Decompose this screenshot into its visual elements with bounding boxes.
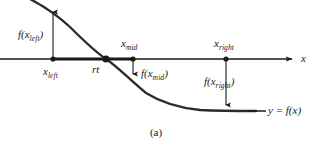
point-root bbox=[102, 55, 109, 62]
point-x-mid bbox=[130, 56, 135, 61]
axis-label-x: x bbox=[301, 53, 306, 64]
label-f-x-right-close: ) bbox=[231, 75, 235, 87]
label-f-x-left-close: ) bbox=[40, 28, 44, 40]
bisection-method-figure: f(xleft) xleft rt xmid f(xmid) xright f(… bbox=[0, 0, 312, 147]
label-f-x-mid: f(xmid) bbox=[141, 68, 168, 79]
label-f-x-left-sub: left bbox=[30, 34, 40, 43]
label-x-mid-sub: mid bbox=[126, 43, 138, 52]
point-x-left bbox=[50, 56, 55, 61]
function-curve bbox=[28, 0, 256, 111]
label-x-right: xright bbox=[214, 38, 234, 49]
label-x-left: xleft bbox=[43, 66, 58, 77]
label-x-mid: xmid bbox=[121, 38, 137, 49]
figure-caption: (a) bbox=[0, 126, 312, 138]
label-f-x-mid-sub: mid bbox=[153, 73, 165, 82]
label-root: rt bbox=[92, 64, 99, 75]
label-x-right-sub: right bbox=[219, 43, 234, 52]
curve-label: y = f(x) bbox=[268, 105, 301, 116]
label-x-left-sub: left bbox=[48, 71, 58, 80]
label-f-x-right-base: f(x bbox=[204, 75, 216, 87]
label-f-x-mid-base: f(x bbox=[141, 67, 153, 79]
point-x-right bbox=[223, 56, 228, 61]
label-f-x-mid-close: ) bbox=[164, 67, 168, 79]
label-f-x-right: f(xright) bbox=[204, 76, 234, 87]
label-f-x-left: f(xleft) bbox=[18, 29, 43, 40]
label-f-x-right-sub: right bbox=[216, 81, 231, 90]
label-f-x-left-base: f(x bbox=[18, 28, 30, 40]
